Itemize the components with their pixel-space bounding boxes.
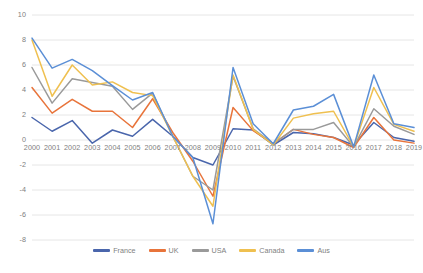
y-tick-label: 2 <box>4 110 26 119</box>
x-tick-label: 2019 <box>403 143 423 152</box>
x-tick-label: 2014 <box>302 143 324 152</box>
y-tick-label: 10 <box>4 10 26 19</box>
x-tick-label: 2011 <box>242 143 264 152</box>
legend-label: Aus <box>317 246 329 255</box>
x-tick-label: 2007 <box>162 143 184 152</box>
legend-swatch-icon <box>192 249 209 251</box>
legend-item-aus[interactable]: Aus <box>297 246 329 255</box>
x-tick-label: 2006 <box>142 143 164 152</box>
legend-swatch-icon <box>93 249 110 251</box>
y-tick-label: -8 <box>4 235 26 244</box>
legend-label: USA <box>212 246 227 255</box>
chart-plot-area <box>0 0 423 273</box>
y-tick-label: -2 <box>4 160 26 169</box>
x-tick-label: 2002 <box>61 143 83 152</box>
x-tick-label: 2017 <box>363 143 385 152</box>
legend-swatch-icon <box>149 249 166 251</box>
y-tick-label: -4 <box>4 185 26 194</box>
y-tick-label: 8 <box>4 35 26 44</box>
gridlines <box>32 15 414 240</box>
chart-legend: FranceUKUSACanadaAus <box>0 246 423 255</box>
x-tick-label: 2015 <box>323 143 345 152</box>
line-chart: 1086420-2-4-6-8 200020012002200320042005… <box>0 0 423 273</box>
x-tick-label: 2003 <box>81 143 103 152</box>
x-tick-label: 2004 <box>101 143 123 152</box>
series-line-usa <box>32 68 414 191</box>
x-tick-label: 2018 <box>383 143 405 152</box>
y-tick-label: -6 <box>4 210 26 219</box>
x-tick-label: 2001 <box>41 143 63 152</box>
legend-item-usa[interactable]: USA <box>192 246 227 255</box>
x-tick-label: 2013 <box>282 143 304 152</box>
x-tick-label: 2008 <box>182 143 204 152</box>
x-tick-label: 2009 <box>202 143 224 152</box>
legend-item-canada[interactable]: Canada <box>239 246 284 255</box>
x-tick-label: 2012 <box>262 143 284 152</box>
legend-item-uk[interactable]: UK <box>149 246 179 255</box>
x-tick-label: 2010 <box>222 143 244 152</box>
x-tick-label: 2016 <box>343 143 365 152</box>
legend-swatch-icon <box>239 249 256 251</box>
x-tick-label: 2005 <box>122 143 144 152</box>
legend-label: Canada <box>259 246 284 255</box>
series-lines <box>32 38 414 224</box>
y-tick-label: 6 <box>4 60 26 69</box>
legend-label: France <box>113 246 135 255</box>
y-tick-label: 4 <box>4 85 26 94</box>
legend-item-france[interactable]: France <box>93 246 135 255</box>
legend-swatch-icon <box>297 249 314 251</box>
x-tick-label: 2000 <box>21 143 43 152</box>
legend-label: UK <box>169 246 179 255</box>
